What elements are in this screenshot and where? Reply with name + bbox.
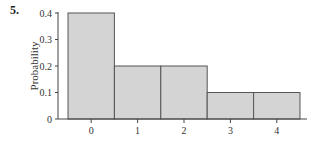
y-tick-label: 0.4 (40, 8, 53, 19)
y-tick-label: 0.1 (40, 87, 53, 98)
y-tick-label: 0.2 (40, 61, 53, 72)
y-tick-label: 0 (47, 114, 52, 125)
probability-histogram: 00.10.20.30.401234Probability (0, 0, 312, 147)
bar-1 (114, 66, 160, 119)
bar-4 (254, 93, 300, 120)
y-axis-label: Probability (28, 41, 40, 90)
x-tick-label: 4 (274, 125, 279, 136)
x-tick-label: 2 (182, 125, 187, 136)
y-tick-label: 0.3 (40, 34, 53, 45)
bar-0 (68, 13, 114, 119)
x-tick-label: 0 (89, 125, 94, 136)
x-tick-label: 3 (228, 125, 233, 136)
x-tick-label: 1 (135, 125, 140, 136)
bar-3 (207, 93, 253, 120)
bar-2 (161, 66, 207, 119)
